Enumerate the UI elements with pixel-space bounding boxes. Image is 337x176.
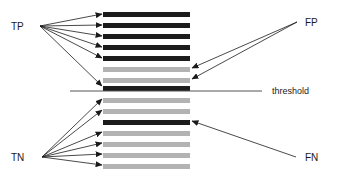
arrow-tp-1 (40, 14, 102, 26)
arrow-tp-4 (40, 26, 102, 47)
bar-tn-12 (103, 131, 190, 136)
bar-tp-8 (103, 86, 190, 91)
label-tp: TP (11, 21, 24, 32)
arrow-tp-2 (40, 25, 102, 26)
bar-tn-13 (103, 142, 190, 147)
label-fn: FN (305, 152, 318, 163)
bar-tp-5 (103, 56, 190, 61)
threshold-diagram: TP TN FP FN threshold (0, 0, 337, 176)
bar-tn-9 (103, 98, 190, 103)
bar-tp-4 (103, 45, 190, 50)
arrow-fp-2 (192, 22, 297, 79)
label-tn: TN (11, 152, 24, 163)
arrow-fp-1 (192, 22, 297, 68)
arrow-tn-1 (42, 99, 102, 157)
diagram-canvas: TP TN FP FN threshold (0, 0, 337, 176)
label-threshold: threshold (272, 86, 309, 96)
bar-tp-1 (103, 12, 190, 17)
bar-tp-3 (103, 34, 190, 39)
arrow-tp-6 (40, 26, 102, 86)
bar-tn-14 (103, 153, 190, 158)
bar-fp-7 (103, 78, 190, 83)
label-fp: FP (305, 17, 318, 28)
bar-fp-6 (103, 67, 190, 72)
bar-fn-11 (103, 120, 190, 125)
bar-tn-15 (103, 164, 190, 169)
bar-tn-10 (103, 109, 190, 114)
arrow-fn-1 (192, 121, 296, 157)
arrow-tn-5 (42, 154, 102, 157)
bar-tp-2 (103, 23, 190, 28)
arrow-tn-6 (42, 157, 102, 165)
arrow-tn-3 (42, 132, 102, 157)
